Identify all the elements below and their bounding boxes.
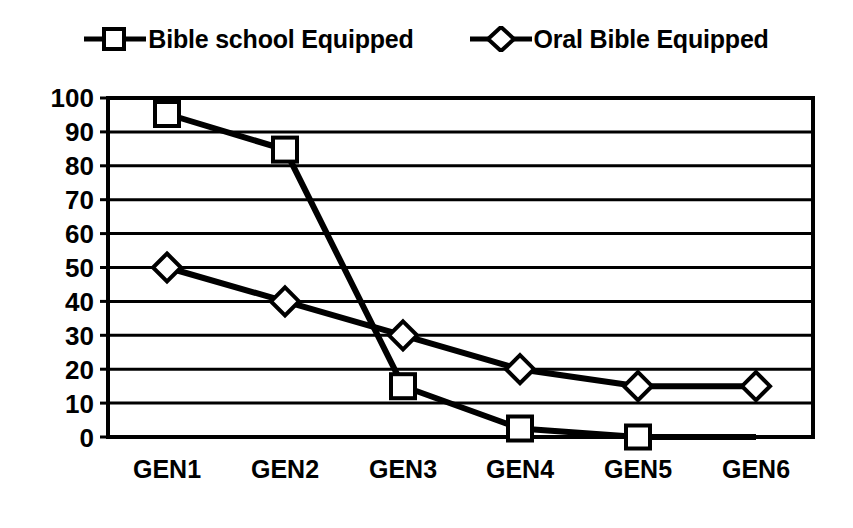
data-point-marker <box>508 417 532 441</box>
data-point-marker <box>742 372 770 400</box>
data-point-marker <box>624 372 652 400</box>
data-point-marker <box>391 374 415 398</box>
data-point-marker <box>155 102 179 126</box>
data-point-marker <box>389 321 417 349</box>
data-point-marker <box>271 287 299 315</box>
chart-canvas <box>0 0 853 528</box>
series-oral-bible-equipped <box>153 254 770 401</box>
data-point-marker <box>273 138 297 162</box>
gridlines <box>108 132 813 403</box>
data-point-marker <box>153 254 181 282</box>
series-bible-school-equipped <box>155 102 756 449</box>
plot-area: 100 90 80 70 60 50 40 30 20 10 0 <box>0 0 853 528</box>
data-point-marker <box>506 355 534 383</box>
x-axis-tick-label: GEN6 <box>686 457 826 482</box>
chart-container: Bible school Equipped Oral Bible Equippe… <box>0 0 853 528</box>
data-point-marker <box>626 426 650 449</box>
